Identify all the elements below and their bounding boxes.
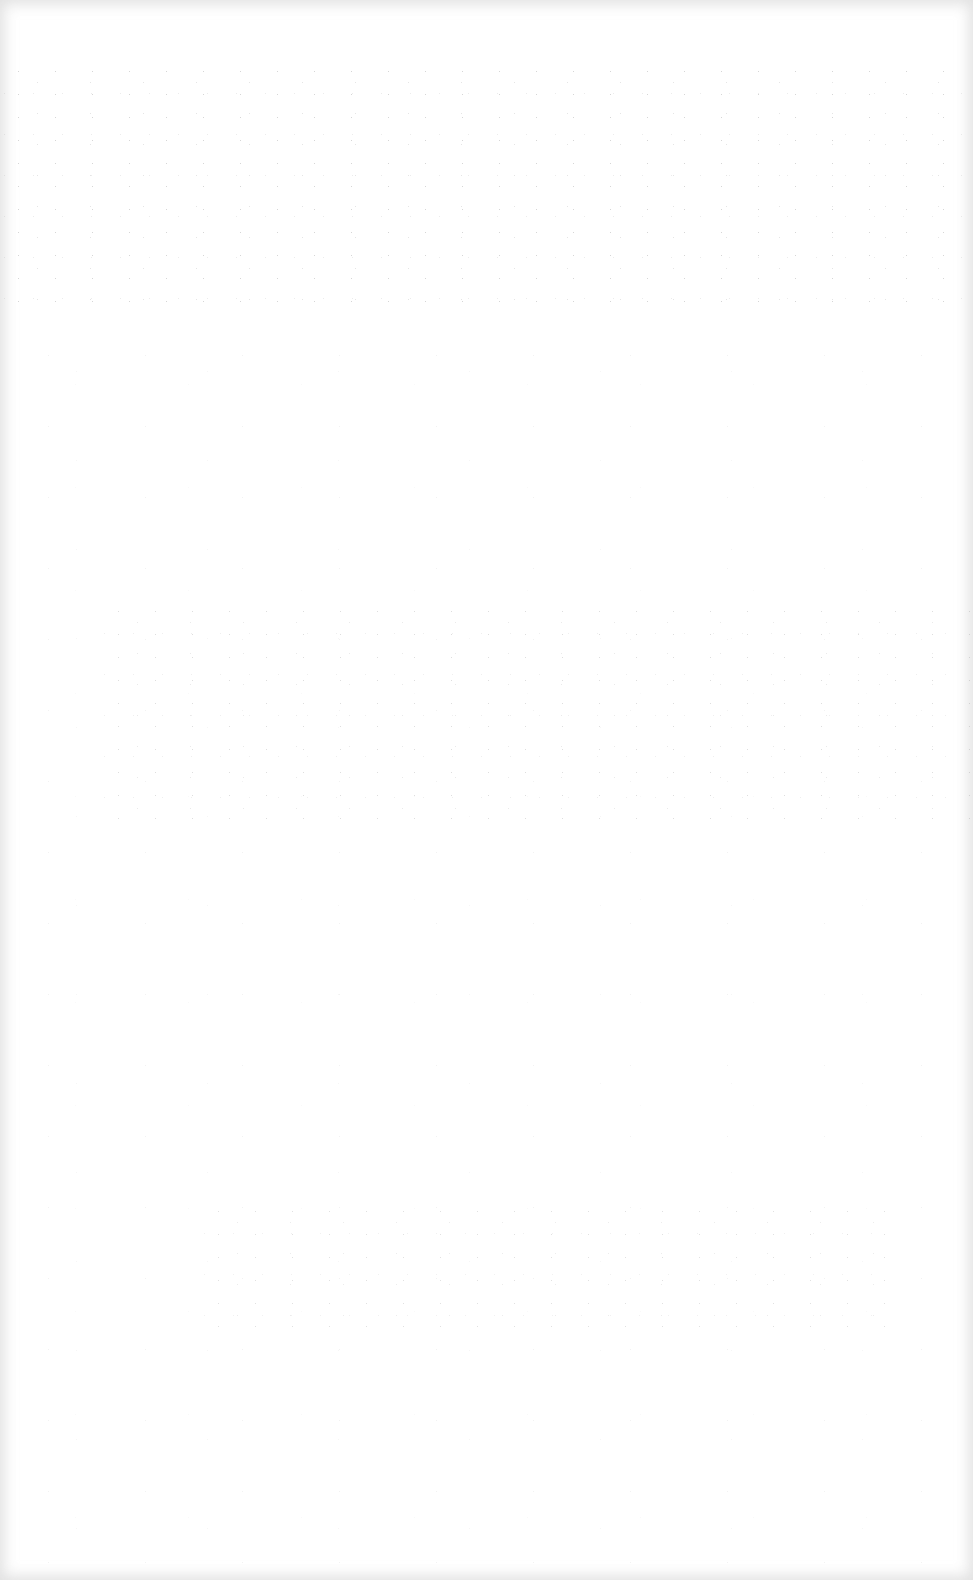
background-speckle [0,320,973,1580]
background-speckle [0,60,973,320]
blank-page [0,0,973,1580]
background-speckle [100,600,973,820]
background-speckle [200,1200,900,1340]
